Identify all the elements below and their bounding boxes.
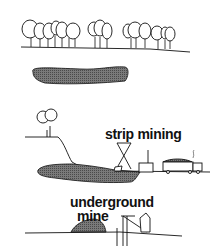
coal-seam <box>38 164 140 183</box>
ground-line <box>25 232 182 236</box>
label-strip-mining: strip mining <box>105 127 182 141</box>
hill <box>25 137 79 166</box>
truck-icon <box>163 150 202 174</box>
panel-strip-mining <box>25 109 210 183</box>
dragline-icon <box>114 143 153 172</box>
panel-undisturbed <box>21 20 190 84</box>
coal-seam <box>33 67 128 84</box>
headframe-icon <box>117 213 150 246</box>
label-underground: underground <box>70 195 154 209</box>
label-mine: mine <box>77 209 108 223</box>
tree-row-icon <box>22 20 175 49</box>
tree-icon <box>37 109 57 137</box>
